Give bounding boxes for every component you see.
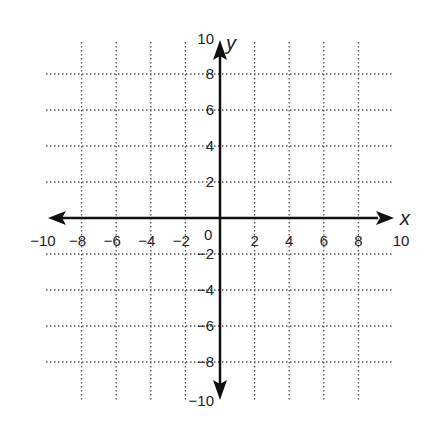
x-tick-label: −10 <box>30 232 55 249</box>
x-tick-label: 6 <box>320 232 328 249</box>
y-tick-label: 2 <box>206 173 214 190</box>
x-tick-label: 4 <box>285 232 293 249</box>
y-tick-label: 4 <box>206 137 214 154</box>
x-tick-label: 8 <box>354 232 362 249</box>
y-tick-label: −8 <box>197 353 214 370</box>
y-tick-label: 10 <box>197 30 214 47</box>
x-tick-label: 2 <box>250 232 258 249</box>
coordinate-plane: x y 0 −10−8−6−4−2246810 108642−2−4−6−8−1… <box>0 0 434 421</box>
y-tick-label: −4 <box>197 281 214 298</box>
y-tick-labels: 108642−2−4−6−8−10 <box>189 30 214 409</box>
y-tick-label: −2 <box>197 245 214 262</box>
y-tick-label: 6 <box>206 101 214 118</box>
x-tick-label: −8 <box>69 232 86 249</box>
y-tick-label: 8 <box>206 65 214 82</box>
x-tick-label: −4 <box>138 232 155 249</box>
x-tick-label: −2 <box>173 232 190 249</box>
x-axis-label: x <box>399 207 411 229</box>
y-axis-label: y <box>224 32 237 54</box>
x-axis-right-arrow-icon <box>376 211 394 225</box>
y-tick-label: −10 <box>189 392 214 409</box>
y-tick-label: −6 <box>197 317 214 334</box>
origin-label: 0 <box>204 226 212 243</box>
x-tick-label: −6 <box>104 232 121 249</box>
x-tick-label: 10 <box>393 232 410 249</box>
